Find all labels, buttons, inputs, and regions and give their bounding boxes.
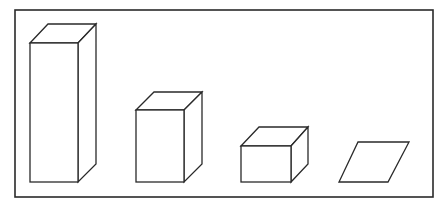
medium-prism-front-face: [136, 110, 184, 182]
diagram-canvas: [0, 0, 448, 209]
short-prism: [241, 127, 308, 182]
flat-parallelogram: [339, 142, 409, 182]
tall-prism-front-face: [30, 43, 78, 182]
tall-prism: [30, 24, 96, 182]
short-prism-front-face: [241, 146, 291, 182]
medium-prism: [136, 92, 202, 182]
tall-prism-side-face: [78, 24, 96, 182]
prisms-diagram: [0, 0, 448, 209]
